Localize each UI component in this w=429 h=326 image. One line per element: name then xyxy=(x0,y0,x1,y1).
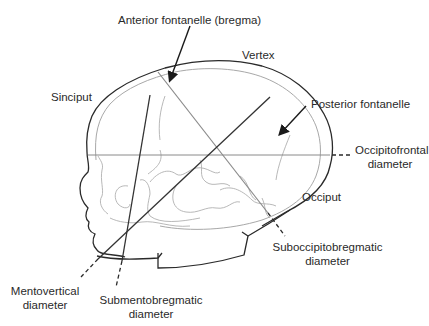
mentovertical-dash xyxy=(81,259,98,277)
head-outline xyxy=(80,61,332,257)
submentobregmatic-dash xyxy=(116,261,122,287)
label-suboccipitobregmatic: Suboccipitobregmatic diameter xyxy=(270,240,385,268)
label-sinciput: Sinciput xyxy=(51,90,92,104)
label-occiput: Occiput xyxy=(302,190,341,204)
label-anterior-fontanelle: Anterior fontanelle (bregma) xyxy=(118,13,261,27)
mentovertical-diameter-line xyxy=(98,97,270,259)
anterior-fontanelle-arrow xyxy=(170,26,190,80)
label-vertex: Vertex xyxy=(242,48,275,62)
suboccipitobregmatic-line1: Suboccipitobregmatic xyxy=(270,240,385,254)
submentobregmatic-line2: diameter xyxy=(96,307,206,321)
mentovertical-line1: Mentovertical xyxy=(5,284,85,298)
posterior-fontanelle-arrow xyxy=(280,106,306,134)
suboccipitobregmatic-line2: diameter xyxy=(270,254,385,268)
submentobregmatic-line1: Submentobregmatic xyxy=(96,293,206,307)
submentobregmatic-diameter-line xyxy=(122,95,150,261)
suboccipitobregmatic-diameter-line xyxy=(158,72,268,213)
neck-outline xyxy=(158,232,248,268)
label-occipitofrontal: Occipitofrontal diameter xyxy=(355,143,425,171)
facial-bones xyxy=(98,96,290,226)
mentovertical-line2: diameter xyxy=(5,298,85,312)
occipitofrontal-line1: Occipitofrontal xyxy=(355,143,425,157)
inner-skull-outline xyxy=(96,69,321,230)
label-submentobregmatic: Submentobregmatic diameter xyxy=(96,293,206,321)
label-posterior-fontanelle: Posterior fontanelle xyxy=(311,97,410,111)
label-mentovertical: Mentovertical diameter xyxy=(5,284,85,312)
occipitofrontal-line2: diameter xyxy=(355,157,425,171)
